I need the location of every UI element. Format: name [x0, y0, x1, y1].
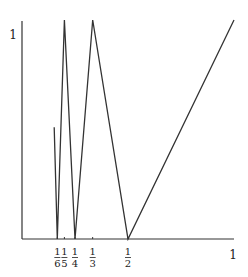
svg-text:5: 5	[61, 258, 67, 269]
y-top-label: 1	[9, 28, 17, 42]
sawtooth-chart: 1 1 1615141312	[0, 0, 248, 277]
svg-text:6: 6	[54, 258, 60, 269]
data-line	[54, 20, 234, 239]
x-end-label: 1	[229, 248, 237, 262]
svg-text:3: 3	[89, 258, 95, 269]
svg-text:1: 1	[61, 246, 67, 257]
svg-text:4: 4	[72, 258, 78, 269]
x-tick-label: 16	[54, 237, 60, 269]
x-tick-labels: 1615141312	[54, 237, 131, 269]
x-tick-label: 14	[72, 237, 78, 269]
svg-text:2: 2	[125, 258, 131, 269]
svg-text:1: 1	[89, 246, 95, 257]
x-tick-label: 12	[125, 237, 131, 269]
svg-text:1: 1	[54, 246, 60, 257]
x-tick-label: 13	[89, 237, 95, 269]
svg-text:1: 1	[125, 246, 131, 257]
svg-text:1: 1	[72, 246, 78, 257]
x-tick-label: 15	[61, 237, 67, 269]
